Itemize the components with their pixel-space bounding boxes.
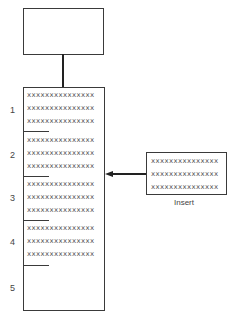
slot-divider-4 [24,265,49,266]
slot-2-row-1: xxxxxxxxxxxxxxx [27,136,94,144]
insert-row-2: xxxxxxxxxxxxxxx [151,170,218,178]
insert-arrow-shaft [110,173,147,175]
insert-row-1: xxxxxxxxxxxxxxx [151,157,218,165]
slot-divider-1 [24,131,49,132]
slot-number-5: 5 [10,283,15,293]
slot-4-row-2: xxxxxxxxxxxxxxx [27,237,94,245]
list-box: xxxxxxxxxxxxxxx xxxxxxxxxxxxxxx xxxxxxxx… [23,87,105,311]
slot-number-4: 4 [10,237,15,247]
slot-number-1: 1 [10,105,15,115]
slot-number-3: 3 [10,193,15,203]
insert-row-3: xxxxxxxxxxxxxxx [151,183,218,191]
slot-divider-3 [24,220,49,221]
slot-3-row-2: xxxxxxxxxxxxxxx [27,193,94,201]
slot-3-row-3: xxxxxxxxxxxxxxx [27,206,94,214]
connector-line [62,54,64,88]
slot-4-row-3: xxxxxxxxxxxxxxx [27,250,94,258]
slot-2-row-3: xxxxxxxxxxxxxxx [27,162,94,170]
slot-4-row-1: xxxxxxxxxxxxxxx [27,224,94,232]
slot-1-row-2: xxxxxxxxxxxxxxx [27,104,94,112]
top-box [23,8,104,55]
slot-number-2: 2 [10,150,15,160]
insert-box: xxxxxxxxxxxxxxx xxxxxxxxxxxxxxx xxxxxxxx… [146,152,227,195]
slot-1-row-3: xxxxxxxxxxxxxxx [27,117,94,125]
insert-caption: Insert [174,198,194,207]
arrow-left-icon [105,171,113,177]
slot-1-row-1: xxxxxxxxxxxxxxx [27,91,94,99]
slot-3-row-1: xxxxxxxxxxxxxxx [27,180,94,188]
slot-divider-2 [24,176,49,177]
slot-2-row-2: xxxxxxxxxxxxxxx [27,149,94,157]
